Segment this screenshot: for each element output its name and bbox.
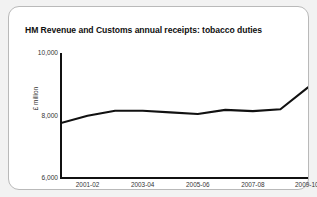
y-axis-tick-label: 8,000 [41,112,58,119]
page-title: HM Revenue and Customs annual receipts: … [25,25,303,36]
x-axis-tick-label: 2001-02 [76,181,99,188]
chart-card: HM Revenue and Customs annual receipts: … [8,6,309,190]
y-axis-label: £ million [32,69,39,129]
x-axis-tick-label: 2007-08 [241,181,264,188]
plot-area [60,53,308,178]
y-axis-tick-label: 10,000 [38,49,58,56]
screenshot-root: HM Revenue and Customs annual receipts: … [0,0,317,197]
y-axis-tick-label: 6,000 [41,174,58,181]
data-line [60,87,308,123]
x-axis-tick-label: 2005-06 [186,181,209,188]
x-axis-tick-label: 2003-04 [131,181,154,188]
x-axis-tick-label: 2009-101 [295,181,317,188]
line-series-tobacco-duties [60,53,308,178]
